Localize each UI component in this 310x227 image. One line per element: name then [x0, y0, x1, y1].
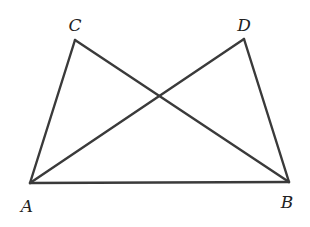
segment-db [244, 39, 289, 182]
segment-ad [30, 39, 244, 183]
segment-ab [30, 182, 289, 183]
label-b: B [280, 192, 294, 212]
segment-ac [30, 40, 75, 183]
label-c: C [68, 15, 81, 35]
label-d: D [236, 15, 251, 35]
label-a: A [19, 196, 33, 216]
geometry-diagram: C D A B [0, 0, 310, 227]
segments [30, 39, 289, 183]
vertex-labels: C D A B [19, 15, 293, 216]
segment-cb [75, 40, 289, 182]
